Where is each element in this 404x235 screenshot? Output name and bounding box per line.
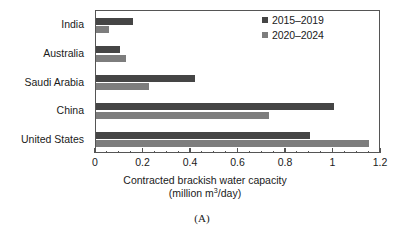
- legend: 2015–20192020–2024: [262, 14, 324, 41]
- x-tick-label-6: 1.2: [373, 156, 388, 168]
- x-axis-title-line2: (million m3/day): [50, 187, 360, 200]
- x-tick-label-3: 0.6: [230, 156, 245, 168]
- bar-india-series1: [96, 18, 133, 25]
- legend-label-1: 2015–2019: [272, 14, 324, 26]
- x-axis-title: Contracted brackish water capacity (mill…: [50, 174, 360, 199]
- plot-area: [95, 10, 380, 153]
- legend-entry-2: 2020–2024: [262, 29, 324, 41]
- x-tick-label-4: 0.8: [278, 156, 293, 168]
- bar-australia-series2: [96, 55, 126, 62]
- x-tick-label-1: 0.2: [135, 156, 150, 168]
- x-axis-title-line1: Contracted brackish water capacity: [123, 174, 286, 186]
- x-tick-label-5: 1: [330, 156, 336, 168]
- bar-united-states-series2: [96, 140, 369, 147]
- bars-layer: [96, 11, 379, 152]
- category-label-india: India: [61, 19, 84, 30]
- bar-india-series2: [96, 26, 109, 33]
- bar-china-series1: [96, 103, 334, 110]
- bar-saudi-arabia-series2: [96, 83, 149, 90]
- legend-entry-1: 2015–2019: [262, 14, 324, 26]
- category-label-united-states: United States: [21, 133, 84, 144]
- category-axis-labels: IndiaAustraliaSaudi ArabiaChinaUnited St…: [0, 10, 90, 153]
- bar-saudi-arabia-series1: [96, 75, 195, 82]
- x-tick-label-0: 0: [92, 156, 98, 168]
- figure-caption: (A): [0, 212, 404, 224]
- x-tick-label-2: 0.4: [183, 156, 198, 168]
- category-label-china: China: [57, 105, 84, 116]
- x-axis-title-units-post: /day): [218, 187, 241, 199]
- legend-swatch-icon-1: [262, 17, 268, 23]
- x-axis-title-units-pre: (million m: [169, 187, 214, 199]
- legend-label-2: 2020–2024: [272, 29, 324, 41]
- bar-united-states-series1: [96, 132, 310, 139]
- category-label-australia: Australia: [43, 47, 84, 58]
- bar-china-series2: [96, 112, 269, 119]
- category-label-saudi-arabia: Saudi Arabia: [24, 76, 84, 87]
- bar-australia-series1: [96, 46, 120, 53]
- legend-swatch-icon-2: [262, 32, 268, 38]
- figure-panel-a: IndiaAustraliaSaudi ArabiaChinaUnited St…: [0, 0, 404, 235]
